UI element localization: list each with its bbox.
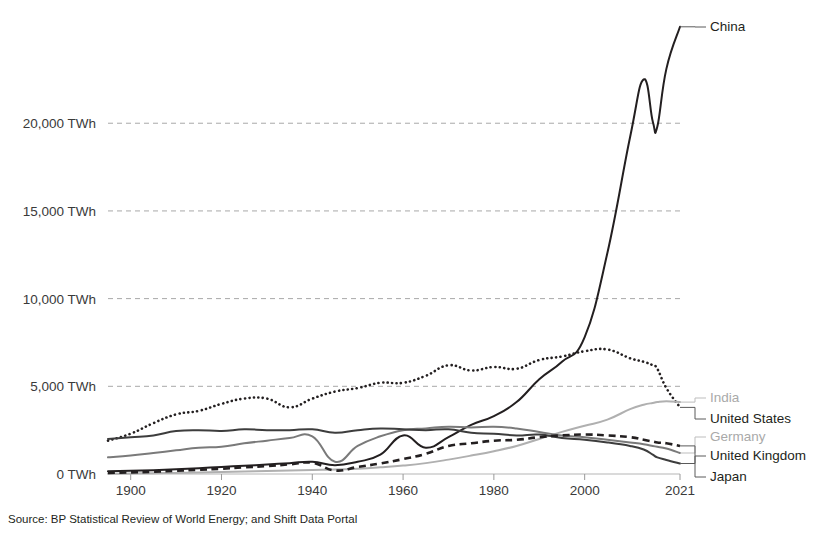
leader-line-japan [680, 446, 706, 477]
x-tickmarks-group [131, 474, 680, 480]
x-axis-tick-label: 1900 [116, 483, 146, 498]
x-axis-tick-label: 1920 [206, 483, 236, 498]
energy-consumption-chart: 0 TWh5,000 TWh10,000 TWh15,000 TWh20,000… [0, 0, 814, 541]
series-labels-group: ChinaIndiaUnited StatesGermanyUnited Kin… [710, 19, 806, 484]
source-note: Source: BP Statistical Review of World E… [8, 513, 357, 525]
x-axis-labels-group: 1900192019401960198020002021 [116, 483, 695, 498]
series-line-united-kingdom [108, 428, 680, 463]
y-axis-labels-group: 0 TWh5,000 TWh10,000 TWh15,000 TWh20,000… [23, 116, 96, 482]
x-axis-tick-label: 1960 [388, 483, 418, 498]
x-axis-tick-label: 1980 [479, 483, 509, 498]
y-axis-tick-label: 0 TWh [56, 467, 96, 482]
x-axis-tick-label: 2000 [570, 483, 600, 498]
gridlines-group [108, 123, 680, 474]
series-label-india[interactable]: India [710, 390, 740, 405]
series-line-germany [108, 427, 680, 462]
series-label-china[interactable]: China [710, 19, 746, 34]
series-label-germany[interactable]: Germany [710, 429, 766, 444]
x-axis-tick-label: 2021 [665, 483, 695, 498]
series-line-united-states [108, 349, 680, 441]
leader-line-germany [680, 437, 706, 453]
chart-canvas: 0 TWh5,000 TWh10,000 TWh15,000 TWh20,000… [0, 0, 814, 541]
series-label-japan[interactable]: Japan [710, 469, 747, 484]
leader-line-india [680, 398, 706, 402]
series-label-united-kingdom[interactable]: United Kingdom [710, 448, 806, 463]
series-line-china [108, 27, 680, 472]
y-axis-tick-label: 20,000 TWh [23, 116, 96, 131]
series-label-united-states[interactable]: United States [710, 411, 791, 426]
y-axis-tick-label: 5,000 TWh [30, 379, 96, 394]
series-lines-group [108, 27, 680, 474]
leader-line-united-kingdom [680, 456, 706, 464]
y-axis-tick-label: 15,000 TWh [23, 204, 96, 219]
y-axis-tick-label: 10,000 TWh [23, 292, 96, 307]
leader-lines-group [680, 27, 706, 477]
leader-line-united-states [680, 407, 706, 419]
x-axis-tick-label: 1940 [297, 483, 327, 498]
